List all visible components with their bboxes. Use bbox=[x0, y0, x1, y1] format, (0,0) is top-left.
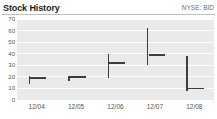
gridline bbox=[17, 65, 214, 66]
y-axis-tick-label: 20 bbox=[0, 74, 15, 80]
stock-history-chart: 010203040506070 12/0412/0512/0612/0712/0… bbox=[0, 17, 217, 119]
ohlc-close-tick bbox=[70, 76, 86, 78]
y-axis-labels: 010203040506070 bbox=[0, 19, 15, 100]
x-axis-tick-label: 12/08 bbox=[186, 103, 202, 111]
y-axis-tick-label: 10 bbox=[0, 85, 15, 91]
gridline bbox=[17, 19, 214, 20]
chart-plot-area bbox=[17, 19, 214, 100]
x-axis-tick-label: 12/04 bbox=[29, 103, 45, 111]
x-axis-tick-label: 12/05 bbox=[68, 103, 84, 111]
y-axis-tick-label: 0 bbox=[0, 97, 15, 103]
widget-header: Stock History NYSE: BID bbox=[0, 0, 217, 15]
ohlc-high-low-bar bbox=[186, 56, 188, 91]
gridline bbox=[17, 100, 214, 101]
stock-history-widget: Stock History NYSE: BID 010203040506070 … bbox=[0, 0, 217, 119]
gridline bbox=[17, 88, 214, 89]
gridline bbox=[17, 42, 214, 43]
gridline bbox=[17, 30, 214, 31]
y-axis-tick-label: 30 bbox=[0, 62, 15, 68]
ohlc-high-low-bar bbox=[147, 28, 149, 65]
ohlc-close-tick bbox=[30, 77, 46, 79]
y-axis-tick-label: 70 bbox=[0, 16, 15, 22]
x-axis-tick-label: 12/06 bbox=[107, 103, 123, 111]
x-axis-tick-label: 12/07 bbox=[147, 103, 163, 111]
gridline bbox=[17, 53, 214, 54]
y-axis-tick-label: 50 bbox=[0, 39, 15, 45]
page-title: Stock History bbox=[3, 3, 60, 13]
ohlc-close-tick bbox=[149, 54, 165, 56]
x-axis-labels: 12/0412/0512/0612/0712/08 bbox=[17, 103, 214, 115]
ohlc-close-tick bbox=[109, 62, 125, 64]
y-axis-tick-label: 60 bbox=[0, 28, 15, 34]
ohlc-high-low-bar bbox=[108, 54, 110, 78]
header-divider bbox=[2, 14, 215, 15]
ohlc-close-tick bbox=[188, 88, 204, 90]
y-axis-tick-label: 40 bbox=[0, 51, 15, 57]
gridline bbox=[17, 76, 214, 77]
ticker-symbol: NYSE: BID bbox=[182, 4, 214, 12]
